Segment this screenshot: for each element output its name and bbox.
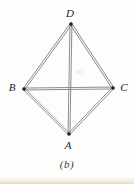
scan-smudge (76, 70, 82, 74)
vertex-dot-B (22, 87, 25, 90)
edge-DC-stroke2 (72, 23, 114, 87)
figure-caption: (b) (0, 158, 134, 170)
edge-DA-stroke2 (70, 24, 72, 134)
edge-DB-stroke1 (23, 23, 70, 88)
vertex-dot-D (69, 22, 72, 25)
edge-CA-stroke1 (68, 87, 112, 133)
edge-BA-stroke1 (23, 90, 68, 135)
vertex-dot-A (67, 132, 70, 135)
vertex-label-D: D (65, 7, 74, 19)
vertex-label-B: B (9, 81, 16, 93)
edge-CA-stroke2 (70, 89, 114, 135)
vertex-label-A: A (64, 139, 72, 151)
vertex-dot-C (111, 86, 114, 89)
figure: DBCA (b) (0, 0, 134, 184)
edge-DB-stroke2 (25, 25, 72, 90)
edge-DC-stroke1 (70, 25, 112, 89)
page-edge-artifact (0, 177, 134, 184)
edge-BA-stroke2 (25, 88, 70, 133)
diagram-svg: DBCA (0, 0, 134, 184)
edge-DA-stroke1 (68, 24, 70, 134)
vertex-label-C: C (120, 81, 128, 93)
